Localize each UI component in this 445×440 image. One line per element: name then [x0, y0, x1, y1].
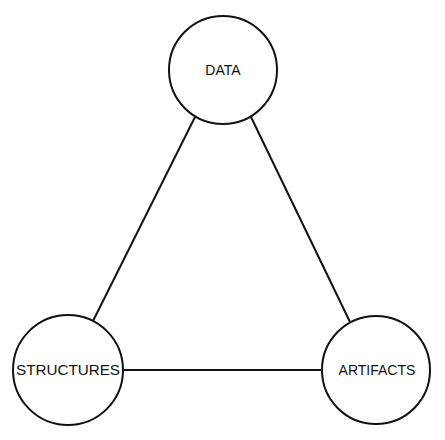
- triangle-diagram: DATA STRUCTURES ARTIFACTS: [0, 0, 445, 440]
- edge-data-artifacts: [251, 117, 350, 322]
- node-artifacts-label: ARTIFACTS: [339, 362, 416, 378]
- node-data-label: DATA: [205, 62, 241, 78]
- edge-data-structures: [93, 117, 195, 321]
- node-structures-label: STRUCTURES: [16, 362, 120, 378]
